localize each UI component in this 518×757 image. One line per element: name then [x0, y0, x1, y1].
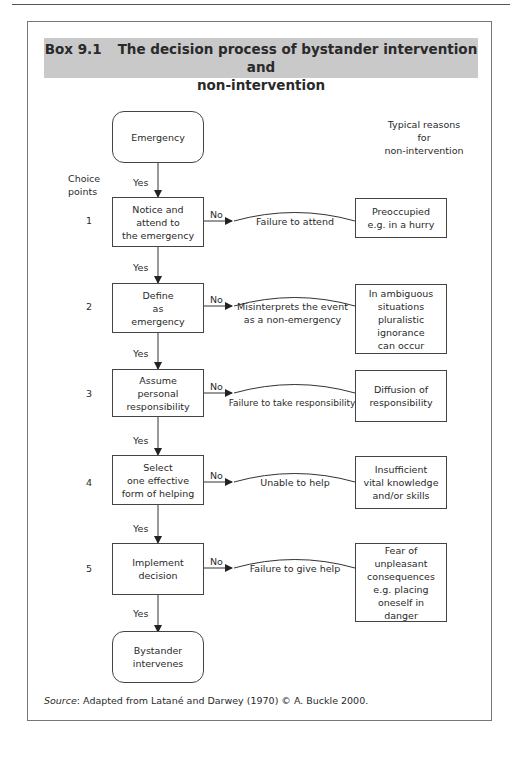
source-text: : Adapted from Latané and Darwey (1970) …	[77, 695, 368, 706]
line: pluralistic	[378, 314, 424, 325]
yes-label: Yes	[133, 434, 148, 447]
step-number: 5	[86, 562, 92, 575]
failure-label: Failure to attend	[240, 215, 350, 228]
no-label: No	[210, 208, 223, 221]
line: In ambiguous	[369, 288, 433, 299]
line: emergency	[131, 316, 184, 327]
line: e.g. in a hurry	[368, 219, 435, 230]
line: e.g. placing	[373, 584, 428, 595]
line: situations	[378, 301, 424, 312]
line: the emergency	[122, 230, 194, 241]
line: ignorance	[377, 327, 424, 338]
line: responsibility	[126, 401, 189, 412]
line: consequences	[367, 571, 435, 582]
line: form of helping	[122, 488, 195, 499]
step-5-node: Implementdecision	[112, 543, 204, 595]
line: Implement	[132, 557, 183, 568]
source-note: Source: Adapted from Latané and Darwey (…	[44, 695, 368, 706]
reason-2-box: In ambiguoussituationspluralisticignoran…	[355, 284, 447, 354]
line: Fear of	[385, 545, 418, 556]
emergency-start-node: Emergency	[112, 111, 204, 163]
reason-1-box: Preoccupiede.g. in a hurry	[355, 198, 447, 238]
yes-label: Yes	[133, 347, 148, 360]
reason-4-box: Insufficientvital knowledgeand/or skills	[355, 456, 447, 509]
node-label: Emergency	[131, 131, 185, 144]
no-label: No	[210, 555, 223, 568]
source-prefix: Source	[44, 695, 77, 706]
line: personal	[137, 388, 178, 399]
yes-label: Yes	[133, 176, 148, 189]
failure-label: Failure to take responsibility	[226, 397, 358, 410]
choice-points-header: Choice points	[68, 172, 108, 198]
failure-label: Failure to give help	[240, 562, 350, 575]
step-2-node: Defineasemergency	[112, 283, 204, 333]
line: vital knowledge	[364, 477, 439, 488]
step-1-node: Notice andattend tothe emergency	[112, 197, 204, 247]
failure-label: Misinterprets the eventas a non-emergenc…	[230, 300, 355, 326]
header-line: non-intervention	[384, 145, 463, 156]
line: one effective	[127, 475, 189, 486]
yes-label: Yes	[133, 607, 148, 620]
line: oneself in	[378, 597, 424, 608]
header-line: points	[68, 186, 97, 197]
line: decision	[138, 570, 177, 581]
line: and/or skills	[372, 490, 429, 501]
header-line: Choice	[68, 173, 100, 184]
typical-reasons-header: Typical reasons for non-intervention	[374, 118, 474, 157]
line: Select	[143, 462, 172, 473]
line: Insufficient	[375, 464, 427, 475]
failure-label: Unable to help	[240, 476, 350, 489]
line: Diffusion of	[374, 384, 428, 395]
line: attend to	[136, 217, 180, 228]
step-3-node: Assumepersonalresponsibility	[112, 369, 204, 417]
line: Notice and	[132, 204, 183, 215]
line: Preoccupied	[372, 206, 430, 217]
line: danger	[384, 610, 418, 621]
no-label: No	[210, 380, 223, 393]
line: responsibility	[369, 397, 432, 408]
bystander-intervenes-end-node: Bystanderintervenes	[112, 631, 204, 683]
line: as a non-emergency	[244, 314, 341, 325]
step-number: 1	[86, 214, 92, 227]
step-4-node: Selectone effectiveform of helping	[112, 455, 204, 505]
yes-label: Yes	[133, 522, 148, 535]
step-number: 4	[86, 476, 92, 489]
yes-label: Yes	[133, 261, 148, 274]
step-number: 2	[86, 300, 92, 313]
line: Bystander	[134, 645, 182, 656]
line: can occur	[378, 340, 424, 351]
line: intervenes	[133, 658, 183, 669]
line: Define	[142, 290, 173, 301]
header-line: Typical reasons	[388, 119, 460, 130]
step-number: 3	[86, 387, 92, 400]
line: Assume	[139, 375, 177, 386]
reason-5-box: Fear ofunpleasantconsequencese.g. placin…	[355, 543, 447, 622]
line: unpleasant	[375, 558, 428, 569]
line: as	[153, 303, 164, 314]
no-label: No	[210, 469, 223, 482]
line: Misinterprets the event	[237, 301, 348, 312]
reason-3-box: Diffusion ofresponsibility	[355, 370, 447, 422]
no-label: No	[210, 293, 223, 306]
header-line: for	[417, 132, 430, 143]
